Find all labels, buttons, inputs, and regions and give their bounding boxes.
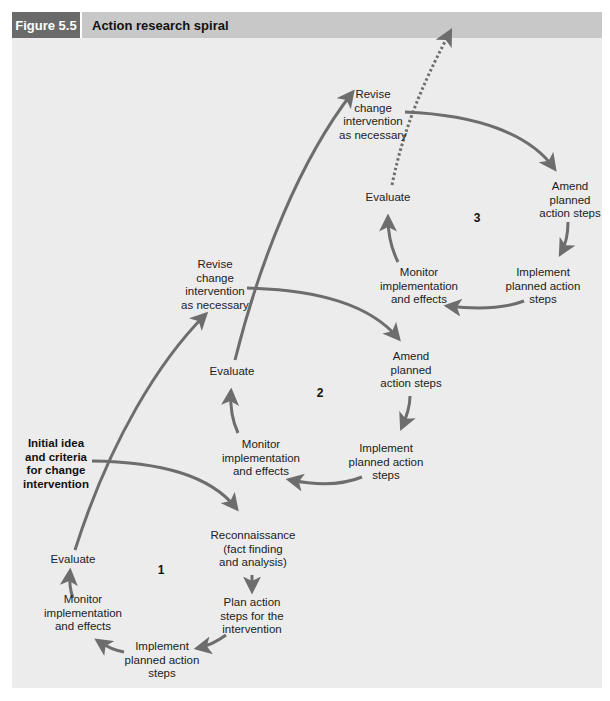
arrow-plan-to-implement xyxy=(198,635,226,648)
arrow-start-to-recon xyxy=(92,461,236,508)
arrow-revise2-to-amend2 xyxy=(247,288,398,338)
label-c1-monitor: Monitor implementation and effects xyxy=(44,593,122,634)
label-c3-amend: Amend planned action steps xyxy=(539,180,600,221)
label-c2-monitor: Monitor implementation and effects xyxy=(222,438,300,479)
label-c2-amend: Amend planned action steps xyxy=(380,350,441,391)
arrow-revise3-to-amend3 xyxy=(405,112,554,168)
arrow-evaluate-to-revise2 xyxy=(75,315,205,550)
cycle-number-2: 2 xyxy=(317,386,324,400)
cycle-number-1: 1 xyxy=(158,563,165,577)
label-c1-plan: Plan action steps for the intervention xyxy=(220,596,283,637)
label-c1-implement: Implement planned action steps xyxy=(125,640,200,681)
arrow-monitor2-to-evaluate2 xyxy=(231,392,238,433)
label-c3-evaluate: Evaluate xyxy=(366,191,411,205)
label-initial-idea: Initial idea and criteria for change int… xyxy=(23,437,89,491)
arrow-monitor3-to-evaluate3 xyxy=(388,218,398,262)
arrow-evaluate2-to-revise3 xyxy=(235,93,352,360)
label-c1-evaluate: Evaluate xyxy=(51,553,96,567)
arrow-implement-to-monitor xyxy=(98,641,124,652)
label-c3-monitor: Monitor implementation and effects xyxy=(380,266,458,307)
arrow-amend2-to-implement2 xyxy=(402,396,410,427)
label-c3-implement: Implement planned action steps xyxy=(506,266,581,307)
arrow-amend3-to-implement3 xyxy=(561,222,568,253)
label-c2-implement: Implement planned action steps xyxy=(349,442,424,483)
label-c1-reconnaissance: Reconnaissance (fact finding and analysi… xyxy=(210,529,295,570)
label-c2-revise: Revise change intervention as necessary xyxy=(181,258,249,312)
label-c3-revise: Revise change intervention as necessary xyxy=(339,88,407,142)
cycle-number-3: 3 xyxy=(474,211,481,225)
label-c2-evaluate: Evaluate xyxy=(210,365,255,379)
